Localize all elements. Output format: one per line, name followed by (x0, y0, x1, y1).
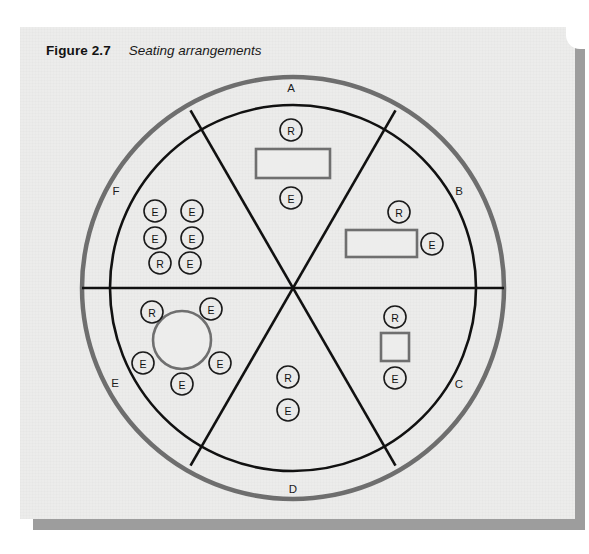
rect-table-a (256, 149, 330, 178)
seat-d-e-1: E (277, 399, 299, 421)
seat-f-e-2: E (144, 227, 166, 249)
seat-f-e-3: E (181, 227, 203, 249)
rect-table-b (346, 230, 417, 257)
sector-a: RE (256, 119, 330, 209)
seating-plan-diagram: ABCDEFREREREREREEEEEEEERE (0, 0, 589, 554)
seat-role-label: E (151, 206, 158, 218)
figure-caption: Figure 2.7 Seating arrangements (46, 38, 262, 62)
seat-role-label: E (207, 304, 214, 316)
seat-e-r-0: R (141, 301, 163, 323)
sector-label-f: F (112, 185, 119, 197)
seat-role-label: E (188, 206, 195, 218)
seat-a-r-0: R (280, 119, 302, 141)
seat-e-e-3: E (209, 352, 231, 374)
sector-label-b: B (455, 185, 463, 197)
seat-c-r-0: R (384, 306, 406, 328)
sector-c: RE (381, 306, 409, 389)
seat-e-e-2: E (132, 352, 154, 374)
sector-b: RE (346, 201, 443, 257)
figure-page: Figure 2.7 Seating arrangements ABCDEFRE… (0, 0, 589, 554)
seat-b-r-0: R (388, 201, 410, 223)
seat-role-label: R (395, 207, 403, 219)
seat-role-label: E (139, 358, 146, 370)
seat-role-label: R (284, 372, 292, 384)
seat-role-label: E (188, 233, 195, 245)
seat-role-label: E (391, 373, 398, 385)
seat-b-e-1: E (421, 233, 443, 255)
seat-role-label: E (216, 358, 223, 370)
seat-role-label: E (151, 233, 158, 245)
sector-e: REEEE (132, 298, 231, 395)
sector-label-c: C (455, 378, 463, 390)
seat-f-e-5: E (179, 252, 201, 274)
sector-f: EEEERE (144, 200, 203, 274)
seat-f-r-4: R (149, 252, 171, 274)
seat-e-e-1: E (200, 298, 222, 320)
seat-f-e-1: E (181, 200, 203, 222)
sector-d: RE (277, 366, 299, 421)
seat-role-label: E (287, 193, 294, 205)
seat-e-e-4: E (171, 373, 193, 395)
seat-role-label: E (178, 379, 185, 391)
round-table-e (153, 311, 211, 369)
sector-label-e: E (111, 377, 119, 389)
seat-role-label: R (391, 312, 399, 324)
sector-label-d: D (289, 483, 297, 495)
seat-role-label: E (186, 258, 193, 270)
seat-role-label: R (148, 307, 156, 319)
seat-role-label: R (287, 125, 295, 137)
seat-a-e-1: E (280, 187, 302, 209)
seat-c-e-1: E (384, 367, 406, 389)
sector-label-a: A (287, 82, 295, 94)
seat-d-r-0: R (277, 366, 299, 388)
seat-f-e-0: E (144, 200, 166, 222)
figure-number: Figure 2.7 (46, 43, 111, 58)
seat-role-label: E (428, 239, 435, 251)
square-table-c (381, 333, 409, 361)
figure-title: Seating arrangements (129, 43, 262, 58)
seat-role-label: R (156, 258, 164, 270)
seat-role-label: E (284, 405, 291, 417)
